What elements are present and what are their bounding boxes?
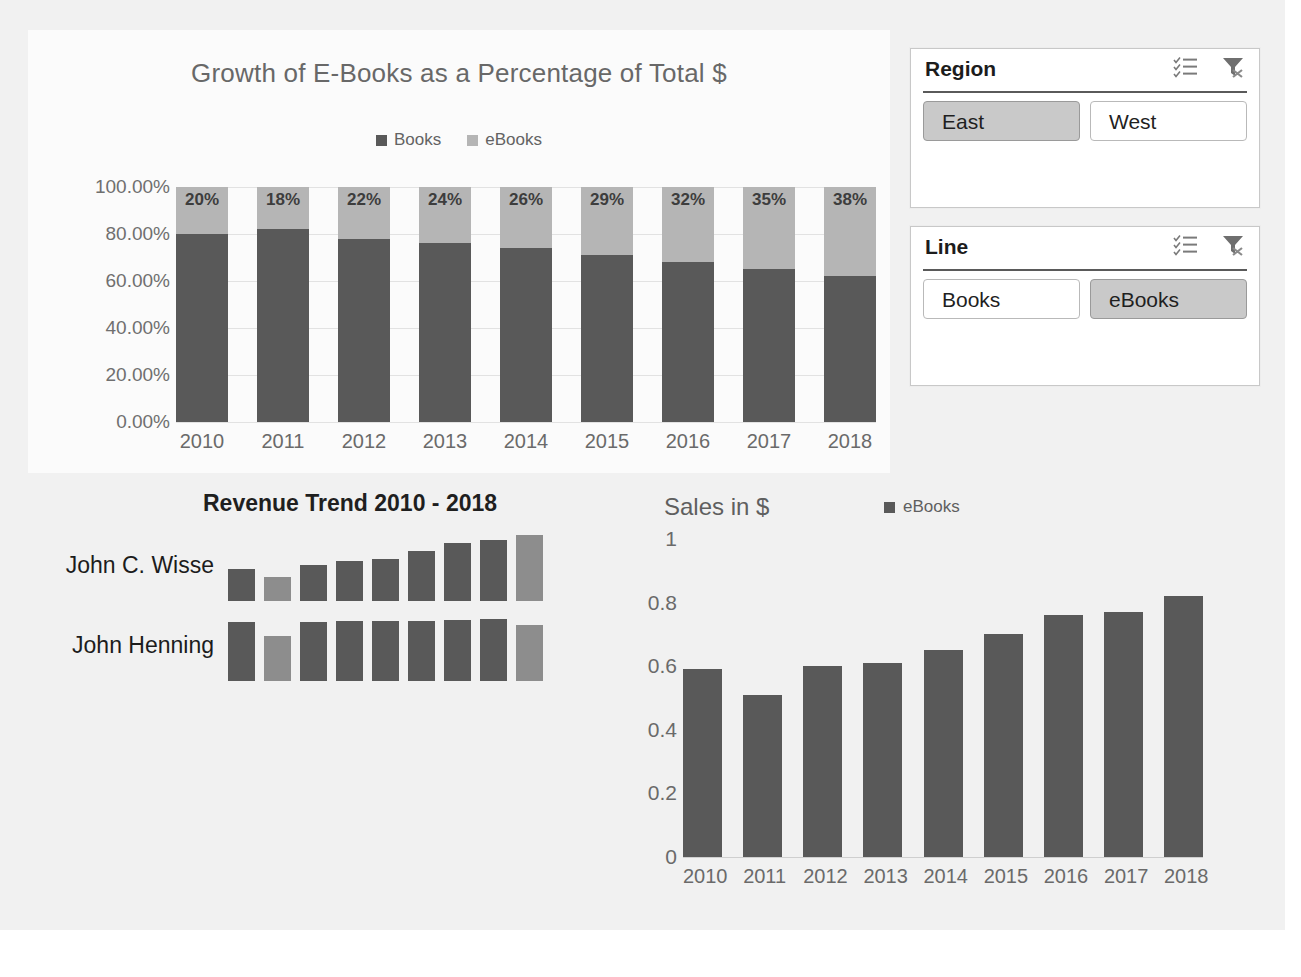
sparkline-bar [480, 540, 507, 601]
sales-bar[interactable] [984, 634, 1023, 857]
sales-bar[interactable] [683, 669, 722, 857]
bar-data-label: 20% [176, 190, 228, 210]
multi-select-icon[interactable] [1173, 55, 1199, 83]
sales-bar[interactable] [863, 663, 902, 857]
y-axis-tick-label: 0.6 [648, 654, 677, 678]
revenue-trend-title: Revenue Trend 2010 - 2018 [203, 490, 497, 517]
bar-segment-ebooks: 29% [581, 187, 633, 255]
slicer-item-ebooks[interactable]: eBooks [1090, 279, 1247, 319]
legend-swatch-ebooks [467, 135, 478, 146]
stacked-bar-column[interactable]: 38% [824, 187, 876, 422]
sales-bar[interactable] [743, 695, 782, 857]
stacked-bar-column[interactable]: 35% [743, 187, 795, 422]
bar-segment-books [662, 262, 714, 422]
sparkline-bar [264, 577, 291, 601]
sales-chart-plot-area [683, 539, 1203, 857]
stacked-chart-y-axis: 100.00%80.00%60.00%40.00%20.00%0.00% [58, 178, 170, 428]
y-axis-tick-label: 0.8 [648, 591, 677, 615]
y-axis-tick-label: 100.00% [95, 176, 170, 198]
legend-label-ebooks: eBooks [485, 130, 542, 150]
slicer-line[interactable]: Line [910, 226, 1260, 386]
sparkline-bar [228, 622, 255, 681]
x-axis-tick-label: 2017 [1104, 865, 1143, 888]
bar-segment-books [419, 243, 471, 422]
legend-swatch-ebooks [884, 502, 895, 513]
stacked-bar-column[interactable]: 29% [581, 187, 633, 422]
slicer-region[interactable]: Region [910, 48, 1260, 208]
x-axis-tick-label: 2018 [824, 430, 876, 453]
sparkline-bar [264, 636, 291, 681]
stacked-chart-x-axis: 201020112012201320142015201620172018 [176, 430, 876, 453]
x-axis-tick-label: 2010 [176, 430, 228, 453]
legend-entry-ebooks: eBooks [467, 130, 542, 150]
slicer-item-east[interactable]: East [923, 101, 1080, 141]
stacked-chart-title: Growth of E-Books as a Percentage of Tot… [28, 58, 890, 89]
sparkline-bar [372, 559, 399, 601]
stacked-percentage-chart[interactable]: Growth of E-Books as a Percentage of Tot… [28, 30, 890, 473]
bar-segment-ebooks: 20% [176, 187, 228, 234]
x-axis-tick-label: 2011 [257, 430, 309, 453]
sparkline-bar [444, 620, 471, 681]
bar-segment-ebooks: 35% [743, 187, 795, 269]
y-axis-tick-label: 0 [665, 845, 677, 869]
stacked-bar-column[interactable]: 18% [257, 187, 309, 422]
sparkline-bar [228, 569, 255, 601]
slicer-item-west[interactable]: West [1090, 101, 1247, 141]
slicer-item-books[interactable]: Books [923, 279, 1080, 319]
sales-bar[interactable] [803, 666, 842, 857]
sparkline-row[interactable]: John Henning [28, 609, 573, 681]
sales-column-chart[interactable]: Sales in $ eBooks 10.80.60.40.20 2010201… [628, 477, 1268, 917]
bar-segment-ebooks: 32% [662, 187, 714, 262]
slicer-region-title: Region [925, 57, 1173, 81]
x-axis-tick-label: 2017 [743, 430, 795, 453]
bar-data-label: 35% [743, 190, 795, 210]
x-axis-tick-label: 2016 [662, 430, 714, 453]
sales-bar[interactable] [1104, 612, 1143, 857]
stacked-bar-column[interactable]: 24% [419, 187, 471, 422]
slicer-region-header: Region [911, 49, 1259, 89]
slicer-line-header: Line [911, 227, 1259, 267]
sales-bar[interactable] [1044, 615, 1083, 857]
y-axis-tick-label: 0.2 [648, 781, 677, 805]
sparkline-row-label: John C. Wisse [28, 552, 228, 579]
legend-label-ebooks: eBooks [903, 497, 960, 517]
legend-swatch-books [376, 135, 387, 146]
x-axis-tick-label: 2014 [924, 865, 963, 888]
clear-filter-icon[interactable] [1221, 55, 1247, 83]
x-axis-tick-label: 2013 [419, 430, 471, 453]
stacked-bar-column[interactable]: 32% [662, 187, 714, 422]
x-axis-tick-label: 2010 [683, 865, 722, 888]
sparkline-row[interactable]: John C. Wisse [28, 529, 573, 601]
x-axis-tick-label: 2015 [581, 430, 633, 453]
stacked-bar-column[interactable]: 20% [176, 187, 228, 422]
x-axis-tick-label: 2012 [338, 430, 390, 453]
bar-data-label: 26% [500, 190, 552, 210]
sales-bar[interactable] [1164, 596, 1203, 857]
stacked-bar-column[interactable]: 22% [338, 187, 390, 422]
sparkline-bar [372, 621, 399, 681]
sales-chart-title: Sales in $ [664, 493, 769, 521]
sales-chart-legend: eBooks [884, 497, 960, 517]
y-axis-tick-label: 0.4 [648, 718, 677, 742]
slicer-line-icons [1173, 233, 1247, 261]
stacked-chart-legend: Books eBooks [28, 130, 890, 150]
bar-segment-books [500, 248, 552, 422]
sales-bar[interactable] [924, 650, 963, 857]
sparkline-bar [444, 543, 471, 601]
bar-data-label: 18% [257, 190, 309, 210]
multi-select-icon[interactable] [1173, 233, 1199, 261]
bar-data-label: 29% [581, 190, 633, 210]
bar-segment-books [338, 239, 390, 422]
y-axis-tick-label: 60.00% [106, 270, 170, 292]
bar-segment-books [257, 229, 309, 422]
sales-chart-baseline [683, 857, 1203, 858]
x-axis-tick-label: 2014 [500, 430, 552, 453]
y-axis-tick-label: 1 [665, 527, 677, 551]
bar-data-label: 38% [824, 190, 876, 210]
clear-filter-icon[interactable] [1221, 233, 1247, 261]
bar-data-label: 22% [338, 190, 390, 210]
stacked-bar-column[interactable]: 26% [500, 187, 552, 422]
bar-segment-ebooks: 38% [824, 187, 876, 276]
bar-segment-ebooks: 22% [338, 187, 390, 239]
slicer-region-divider [923, 91, 1247, 93]
